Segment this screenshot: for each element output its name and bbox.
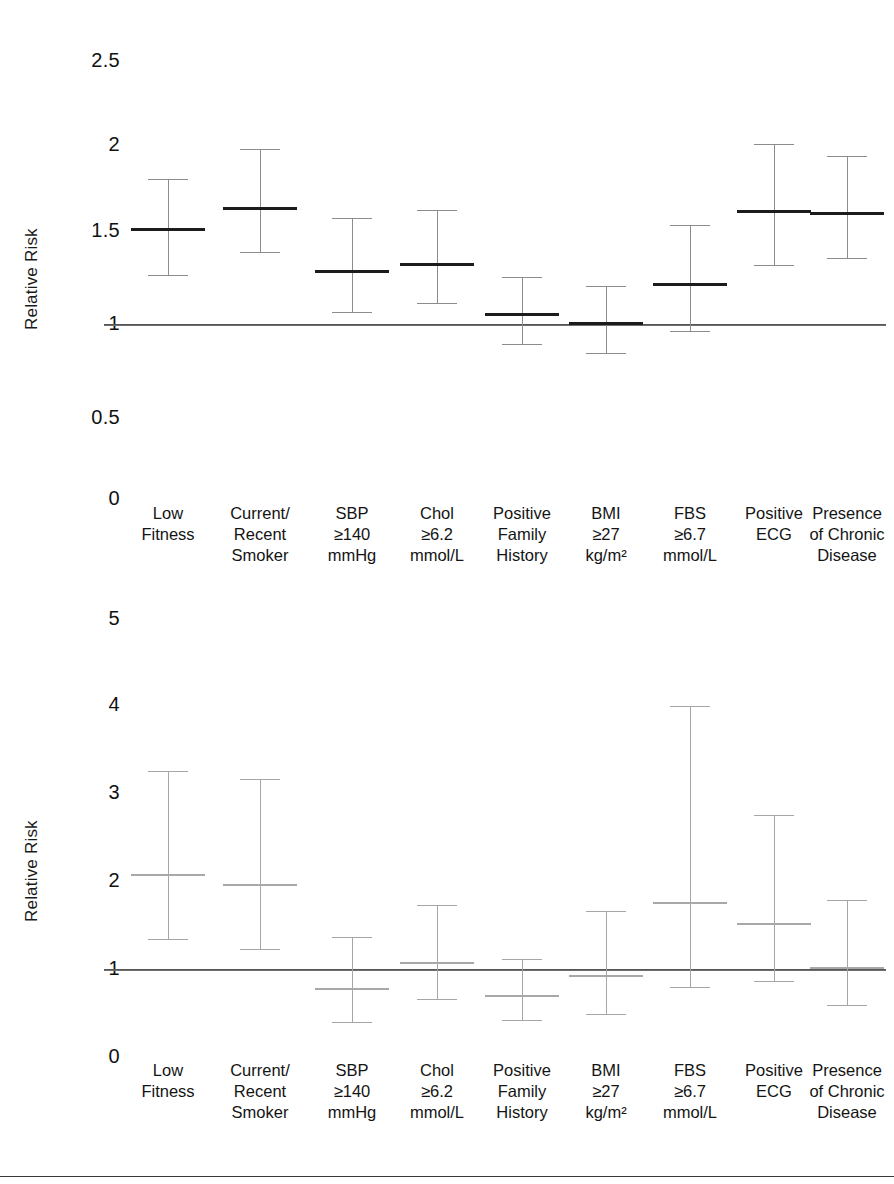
top-plot-area — [0, 0, 894, 560]
whisker-line — [260, 779, 261, 949]
upper-ci-cap — [670, 706, 710, 707]
error-bar-top-5 — [558, 286, 654, 353]
error-bar-top-6 — [642, 225, 738, 331]
upper-ci-cap — [332, 937, 372, 938]
error-bar-top-0 — [120, 179, 216, 275]
lower-ci-cap — [148, 275, 188, 276]
error-bar-bottom-0 — [120, 771, 216, 939]
point-estimate-marker — [653, 902, 727, 904]
whisker-line — [352, 218, 353, 312]
lower-ci-cap — [332, 312, 372, 313]
upper-ci-cap — [754, 815, 794, 816]
lower-ci-cap — [670, 987, 710, 988]
bottom-panel: Relative Risk 543210 LowFitnessCurrent/R… — [0, 592, 894, 1184]
upper-ci-cap — [670, 225, 710, 226]
error-bar-bottom-4 — [474, 959, 570, 1020]
upper-ci-cap — [417, 905, 457, 906]
category-label-line: of Chronic — [793, 524, 894, 545]
lower-ci-cap — [502, 1020, 542, 1021]
point-estimate-marker — [569, 322, 643, 325]
upper-ci-cap — [240, 779, 280, 780]
whisker-line — [168, 771, 169, 939]
error-bar-bottom-3 — [389, 905, 485, 999]
upper-ci-cap — [827, 156, 867, 157]
whisker-line — [522, 277, 523, 344]
category-label-top-8: Presenceof ChronicDisease — [793, 503, 894, 566]
whisker-line — [774, 815, 775, 981]
lower-ci-cap — [148, 939, 188, 940]
whisker-line — [606, 286, 607, 353]
upper-ci-cap — [332, 218, 372, 219]
lower-ci-cap — [827, 1005, 867, 1006]
lower-ci-cap — [417, 999, 457, 1000]
category-label-bottom-8: Presenceof ChronicDisease — [793, 1060, 894, 1123]
point-estimate-marker — [223, 207, 297, 210]
point-estimate-marker — [223, 884, 297, 886]
point-estimate-marker — [569, 975, 643, 977]
upper-ci-cap — [502, 959, 542, 960]
lower-ci-cap — [586, 1014, 626, 1015]
upper-ci-cap — [240, 149, 280, 150]
lower-ci-cap — [754, 981, 794, 982]
error-bar-top-2 — [304, 218, 400, 312]
category-label-line: Disease — [793, 1102, 894, 1123]
lower-ci-cap — [417, 303, 457, 304]
upper-ci-cap — [417, 210, 457, 211]
category-label-line: of Chronic — [793, 1081, 894, 1102]
top-panel: Relative Risk 2.521.510.50 LowFitnessCur… — [0, 0, 894, 592]
whisker-line — [437, 905, 438, 999]
error-bar-bottom-5 — [558, 911, 654, 1014]
lower-ci-cap — [240, 949, 280, 950]
upper-ci-cap — [586, 286, 626, 287]
point-estimate-marker — [400, 962, 474, 964]
whisker-line — [847, 156, 848, 258]
error-bar-bottom-8 — [799, 900, 894, 1006]
whisker-line — [690, 706, 691, 987]
whisker-line — [260, 149, 261, 252]
point-estimate-marker — [131, 228, 205, 231]
error-bar-top-8 — [799, 156, 894, 258]
point-estimate-marker — [315, 988, 389, 990]
point-estimate-marker — [315, 270, 389, 273]
point-estimate-marker — [485, 995, 559, 997]
point-estimate-marker — [485, 313, 559, 316]
whisker-line — [522, 959, 523, 1020]
category-label-line: Presence — [793, 503, 894, 524]
whisker-line — [690, 225, 691, 331]
category-label-line: mmol/L — [636, 545, 744, 566]
point-estimate-marker — [810, 212, 884, 215]
error-bar-top-3 — [389, 210, 485, 303]
whisker-line — [437, 210, 438, 303]
bottom-error-bar-series — [0, 592, 894, 1122]
error-bar-top-1 — [212, 149, 308, 252]
whisker-line — [847, 900, 848, 1006]
lower-ci-cap — [332, 1022, 372, 1023]
upper-ci-cap — [827, 900, 867, 901]
error-bar-bottom-2 — [304, 937, 400, 1021]
point-estimate-marker — [653, 283, 727, 286]
error-bar-top-4 — [474, 277, 570, 344]
category-label-line: Presence — [793, 1060, 894, 1081]
figure-bottom-rule — [0, 1176, 894, 1177]
lower-ci-cap — [754, 265, 794, 266]
point-estimate-marker — [810, 967, 884, 969]
lower-ci-cap — [502, 344, 542, 345]
category-label-line: Disease — [793, 545, 894, 566]
error-bar-bottom-6 — [642, 706, 738, 987]
point-estimate-marker — [131, 874, 205, 876]
lower-ci-cap — [240, 252, 280, 253]
point-estimate-marker — [400, 263, 474, 266]
lower-ci-cap — [670, 331, 710, 332]
category-label-line: mmol/L — [636, 1102, 744, 1123]
whisker-line — [352, 937, 353, 1021]
whisker-line — [774, 144, 775, 265]
upper-ci-cap — [502, 277, 542, 278]
upper-ci-cap — [754, 144, 794, 145]
upper-ci-cap — [148, 771, 188, 772]
lower-ci-cap — [586, 353, 626, 354]
figure-two-forest-plots: Relative Risk 2.521.510.50 LowFitnessCur… — [0, 0, 894, 1184]
error-bar-bottom-1 — [212, 779, 308, 949]
upper-ci-cap — [148, 179, 188, 180]
bottom-plot-area — [0, 592, 894, 1122]
upper-ci-cap — [586, 911, 626, 912]
